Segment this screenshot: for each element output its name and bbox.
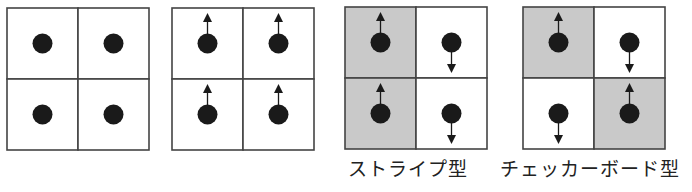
atom-icon	[549, 104, 569, 124]
atom-icon	[620, 104, 640, 124]
atom-icon	[371, 33, 391, 53]
panel-no-spin	[6, 7, 150, 151]
stripe-label: ストライプ型	[348, 157, 468, 181]
atom-icon	[198, 34, 218, 54]
atom-icon	[620, 33, 640, 53]
atom-icon	[442, 104, 462, 124]
atom-icon	[371, 104, 391, 124]
atom-icon	[33, 105, 53, 125]
panel-checkerboard	[522, 6, 666, 150]
atom-icon	[33, 34, 53, 54]
lattice-checkerboard	[522, 6, 666, 150]
panel-ferromagnetic	[171, 7, 315, 151]
lattice-ferromagnetic	[171, 7, 315, 151]
atom-icon	[198, 105, 218, 125]
atom-icon	[104, 105, 124, 125]
checkerboard-label: チェッカーボード型	[500, 157, 680, 181]
lattice-stripe	[344, 6, 488, 150]
lattice-no-spin	[6, 7, 150, 151]
atom-icon	[104, 34, 124, 54]
atom-icon	[442, 33, 462, 53]
atom-icon	[269, 34, 289, 54]
atom-icon	[269, 105, 289, 125]
panel-stripe	[344, 6, 488, 150]
atom-icon	[549, 33, 569, 53]
